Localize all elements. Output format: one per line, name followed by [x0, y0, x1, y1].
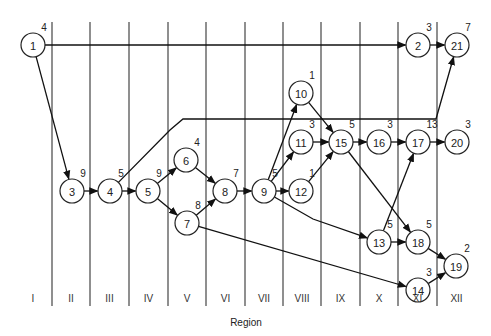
- node-2: 23: [406, 22, 432, 57]
- node-weight: 9: [80, 168, 86, 179]
- node-3: 39: [60, 168, 86, 203]
- node-label: 6: [183, 155, 189, 167]
- axis-title: Region: [230, 317, 262, 328]
- node-5: 59: [136, 168, 162, 203]
- node-weight: 1: [309, 70, 315, 81]
- node-label: 18: [412, 237, 424, 249]
- node-weight: 7: [233, 168, 239, 179]
- node-label: 10: [295, 88, 307, 100]
- region-label-iii: III: [105, 293, 113, 304]
- node-weight: 5: [349, 119, 355, 130]
- node-weight: 8: [195, 200, 201, 211]
- node-weight: 4: [194, 137, 200, 148]
- node-label: 8: [222, 186, 228, 198]
- node-4: 45: [98, 168, 124, 203]
- region-label-x: X: [376, 293, 383, 304]
- node-weight: 4: [41, 22, 47, 33]
- node-12: 121: [289, 168, 315, 203]
- node-18: 185: [406, 219, 432, 254]
- node-weight: 5: [426, 219, 432, 230]
- node-label: 3: [69, 186, 75, 198]
- node-label: 16: [373, 137, 385, 149]
- node-weight: 7: [465, 22, 471, 33]
- node-label: 7: [184, 218, 190, 230]
- region-dividers: [52, 22, 437, 306]
- node-weight: 5: [118, 168, 124, 179]
- node-weight: 2: [464, 243, 470, 254]
- region-label-vii: VII: [258, 293, 270, 304]
- node-weight: 1: [309, 168, 315, 179]
- node-weight: 3: [309, 119, 315, 130]
- node-weight: 3: [426, 267, 432, 278]
- node-label: 17: [412, 137, 424, 149]
- nodes: 1423217394559647887951011131211551631713…: [21, 22, 471, 302]
- node-7: 78: [175, 200, 201, 235]
- region-label-vi: VI: [221, 293, 230, 304]
- edge-5-to-7: [157, 199, 177, 216]
- node-11: 113: [289, 119, 315, 154]
- region-label-ii: II: [68, 293, 74, 304]
- node-label: 12: [295, 186, 307, 198]
- edge-15-to-18: [348, 152, 410, 233]
- node-weight: 3: [465, 119, 471, 130]
- region-label-v: V: [184, 293, 191, 304]
- node-weight: 9: [156, 168, 162, 179]
- node-20: 203: [445, 119, 471, 154]
- node-weight: 5: [387, 219, 393, 230]
- node-label: 4: [107, 186, 113, 198]
- node-weight: 13: [426, 119, 438, 130]
- node-10: 101: [289, 70, 315, 105]
- node-15: 155: [329, 119, 355, 154]
- node-label: 13: [373, 237, 385, 249]
- node-label: 11: [295, 137, 306, 149]
- edge-6-to-8: [195, 168, 215, 184]
- node-17: 1713: [406, 119, 438, 154]
- node-6: 64: [174, 137, 200, 172]
- region-label-ix: IX: [336, 293, 346, 304]
- node-label: 20: [451, 137, 463, 149]
- node-label: 2: [415, 40, 421, 52]
- node-weight: 3: [426, 22, 432, 33]
- node-19: 192: [444, 243, 470, 278]
- region-label-i: I: [32, 293, 35, 304]
- node-13: 135: [367, 219, 393, 254]
- region-label-xii: XII: [450, 293, 462, 304]
- region-label-xi: XI: [413, 293, 422, 304]
- node-label: 21: [451, 40, 463, 52]
- region-label-viii: VIII: [294, 293, 309, 304]
- node-weight: 5: [272, 168, 278, 179]
- network-diagram: 1423217394559647887951011131211551631713…: [0, 0, 491, 336]
- node-label: 9: [261, 186, 267, 198]
- node-label: 19: [450, 261, 462, 273]
- region-label-iv: IV: [144, 293, 154, 304]
- node-label: 15: [335, 137, 347, 149]
- node-21: 217: [445, 22, 471, 57]
- node-1: 14: [21, 22, 47, 57]
- node-label: 5: [145, 186, 151, 198]
- node-weight: 3: [387, 119, 393, 130]
- node-8: 87: [213, 168, 239, 203]
- node-9: 95: [252, 168, 278, 203]
- node-16: 163: [367, 119, 393, 154]
- edge-4-to-21: [118, 57, 453, 182]
- node-label: 1: [30, 40, 36, 52]
